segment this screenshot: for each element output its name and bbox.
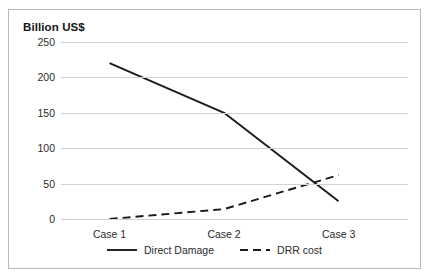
y-axis-tick-labels: 250200150100500: [17, 10, 55, 268]
legend-label: Direct Damage: [144, 244, 214, 256]
gridline: [61, 148, 408, 149]
x-axis-tick-label: Case 2: [207, 228, 240, 240]
legend-item[interactable]: DRR cost: [240, 244, 322, 256]
legend-item[interactable]: Direct Damage: [107, 244, 214, 256]
chart-legend: Direct DamageDRR cost: [9, 244, 420, 256]
y-axis-tick-label: 50: [17, 178, 55, 190]
plot-area: Case 1Case 2Case 3: [61, 10, 408, 268]
series-line-direct-damage: [110, 63, 339, 201]
x-axis-tick-label: Case 1: [93, 228, 126, 240]
y-axis-tick-label: 100: [17, 142, 55, 154]
y-axis-tick-label: 200: [17, 71, 55, 83]
y-axis-tick-label: 0: [17, 213, 55, 225]
series-line-drr-cost: [110, 175, 339, 219]
gridline: [61, 113, 408, 114]
gridline: [61, 42, 408, 43]
gridline: [61, 77, 408, 78]
y-axis-tick-label: 150: [17, 107, 55, 119]
gridline: [61, 184, 408, 185]
legend-line-swatch: [240, 246, 270, 254]
gridline: [61, 219, 408, 220]
legend-line-swatch: [107, 246, 137, 254]
chart-container: Billion US$ 250200150100500 Case 1Case 2…: [8, 9, 421, 269]
y-axis-tick-label: 250: [17, 36, 55, 48]
x-axis-tick-label: Case 3: [322, 228, 355, 240]
legend-label: DRR cost: [277, 244, 322, 256]
